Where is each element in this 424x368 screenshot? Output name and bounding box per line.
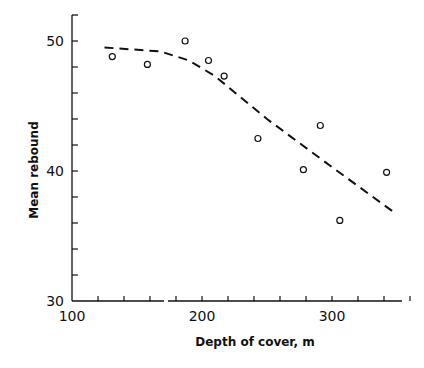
axes: 304050100200300 — [46, 15, 410, 324]
data-point — [337, 217, 343, 223]
data-point — [255, 136, 261, 142]
chart: 304050100200300 Depth of cover, m Mean r… — [0, 0, 424, 368]
x-axis-label: Depth of cover, m — [195, 335, 315, 349]
svg-text:30: 30 — [46, 293, 64, 309]
data-point — [221, 73, 227, 79]
svg-text:200: 200 — [189, 308, 216, 324]
svg-text:40: 40 — [46, 163, 64, 179]
data-point — [109, 54, 115, 60]
plot-area — [105, 38, 395, 223]
y-axis-label: Mean rebound — [27, 121, 41, 218]
data-point — [144, 61, 150, 67]
svg-text:100: 100 — [59, 308, 86, 324]
svg-text:300: 300 — [319, 308, 346, 324]
svg-text:50: 50 — [46, 33, 64, 49]
data-point — [317, 123, 323, 129]
data-point — [206, 58, 212, 64]
data-point — [300, 167, 306, 173]
data-point — [182, 38, 188, 44]
data-point — [384, 169, 390, 175]
